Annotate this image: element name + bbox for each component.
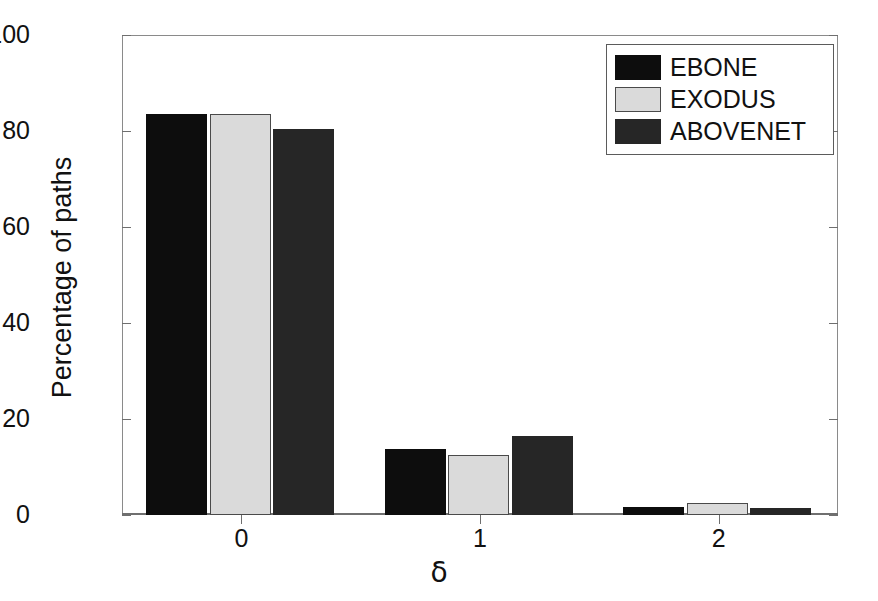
y-tick-mark [122, 419, 131, 420]
x-tick-label: 0 [201, 526, 281, 551]
x-axis-title: δ [0, 556, 878, 589]
legend-item-abovenet: ABOVENET [615, 115, 825, 147]
delta-symbol: δ [430, 556, 447, 589]
y-tick-label: 100 [0, 22, 30, 47]
legend-label: ABOVENET [670, 119, 806, 144]
y-tick-mark-right [829, 227, 838, 228]
y-tick-mark [122, 227, 131, 228]
y-tick-mark [122, 131, 131, 132]
legend: EBONEEXODUSABOVENET [606, 44, 834, 155]
bar-ebone-delta-0 [146, 114, 207, 515]
legend-item-exodus: EXODUS [615, 83, 825, 115]
y-tick-mark-right [829, 515, 838, 516]
x-tick-mark [480, 515, 481, 524]
bar-chart-figure: Percentage of paths δ 020406080100 012 E… [0, 0, 878, 601]
y-tick-label: 0 [16, 502, 30, 527]
y-tick-mark [122, 515, 131, 516]
legend-item-ebone: EBONE [615, 51, 825, 83]
y-tick-mark-right [829, 35, 838, 36]
x-tick-label: 1 [440, 526, 520, 551]
y-tick-mark [122, 323, 131, 324]
x-tick-mark [241, 515, 242, 524]
bar-abovenet-delta-1 [512, 436, 573, 515]
bar-exodus-delta-1 [448, 455, 509, 515]
y-tick-mark-right [829, 323, 838, 324]
x-tick-label: 2 [679, 526, 759, 551]
y-axis-title: Percentage of paths [47, 68, 78, 488]
bar-exodus-delta-2 [687, 503, 748, 515]
y-tick-label: 80 [2, 118, 30, 143]
bar-ebone-delta-1 [385, 449, 446, 515]
y-tick-label: 40 [2, 310, 30, 335]
legend-label: EBONE [670, 55, 758, 80]
legend-swatch-exodus-icon [615, 87, 661, 112]
bar-abovenet-delta-0 [273, 129, 334, 515]
bar-exodus-delta-0 [210, 114, 271, 515]
y-tick-mark [122, 35, 131, 36]
legend-label: EXODUS [670, 87, 776, 112]
y-tick-label: 60 [2, 214, 30, 239]
y-tick-label: 20 [2, 406, 30, 431]
y-tick-mark-right [829, 419, 838, 420]
bar-abovenet-delta-2 [750, 508, 811, 515]
x-tick-mark [719, 515, 720, 524]
legend-swatch-ebone-icon [615, 55, 661, 80]
bar-ebone-delta-2 [623, 507, 684, 515]
legend-swatch-abovenet-icon [615, 119, 661, 144]
